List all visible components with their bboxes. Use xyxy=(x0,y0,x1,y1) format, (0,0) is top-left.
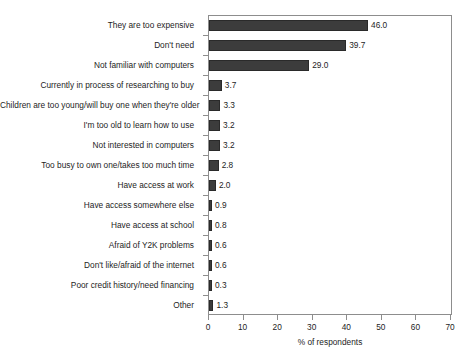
table-row: 29.0 xyxy=(209,56,451,76)
category-label: Have access at work xyxy=(0,175,200,195)
table-row: 3.2 xyxy=(209,116,451,136)
bar-value-label: 2.8 xyxy=(222,159,234,171)
value-tick xyxy=(450,315,451,320)
value-tick xyxy=(312,315,313,320)
x-axis-title: % of respondents xyxy=(208,337,452,347)
bar-value-label: 29.0 xyxy=(312,59,328,71)
category-label: Have access somewhere else xyxy=(0,195,200,215)
bar xyxy=(209,280,212,291)
value-tick-label: 60 xyxy=(400,322,430,332)
bar-value-label: 46.0 xyxy=(371,19,387,31)
bar xyxy=(209,80,222,91)
category-label: Children are too young/will buy one when… xyxy=(0,95,200,115)
table-row: 0.8 xyxy=(209,216,451,236)
value-tick-label: 20 xyxy=(262,322,292,332)
bar xyxy=(209,260,212,271)
bar xyxy=(209,60,309,71)
bar-value-label: 3.3 xyxy=(223,99,235,111)
bar-value-label: 0.6 xyxy=(215,239,227,251)
value-tick xyxy=(346,315,347,320)
bar-chart: They are too expensiveDon't needNot fami… xyxy=(0,0,476,359)
category-label: I'm too old to learn how to use xyxy=(0,115,200,135)
bar xyxy=(209,240,212,251)
bars-layer: 46.039.729.03.73.33.23.22.82.00.90.80.60… xyxy=(209,16,451,314)
table-row: 3.2 xyxy=(209,136,451,156)
category-label: Too busy to own one/takes too much time xyxy=(0,155,200,175)
category-label: Other xyxy=(0,295,200,315)
value-tick-label: 70 xyxy=(435,322,465,332)
value-tick-label: 50 xyxy=(366,322,396,332)
bar xyxy=(209,180,216,191)
category-label: Currently in process of researching to b… xyxy=(0,75,200,95)
value-axis-ticks xyxy=(208,315,452,321)
bar xyxy=(209,220,212,231)
value-tick-label: 0 xyxy=(193,322,223,332)
value-tick-label: 30 xyxy=(297,322,327,332)
value-tick xyxy=(381,315,382,320)
category-label: Have access at school xyxy=(0,215,200,235)
bar-value-label: 0.3 xyxy=(215,279,227,291)
table-row: 3.3 xyxy=(209,96,451,116)
category-label: Don't like/afraid of the internet xyxy=(0,255,200,275)
table-row: 0.3 xyxy=(209,276,451,296)
table-row: 1.3 xyxy=(209,296,451,316)
value-tick-label: 40 xyxy=(331,322,361,332)
table-row: 3.7 xyxy=(209,76,451,96)
table-row: 2.8 xyxy=(209,156,451,176)
bar-value-label: 3.2 xyxy=(223,119,235,131)
table-row: 0.6 xyxy=(209,256,451,276)
value-tick xyxy=(415,315,416,320)
table-row: 2.0 xyxy=(209,176,451,196)
table-row: 0.6 xyxy=(209,236,451,256)
bar-value-label: 39.7 xyxy=(349,39,365,51)
category-label: Afraid of Y2K problems xyxy=(0,235,200,255)
category-label: Not interested in computers xyxy=(0,135,200,155)
bar-value-label: 1.3 xyxy=(216,299,228,311)
value-tick xyxy=(243,315,244,320)
bar-value-label: 3.2 xyxy=(223,139,235,151)
value-tick xyxy=(277,315,278,320)
table-row: 46.0 xyxy=(209,16,451,36)
bar-value-label: 3.7 xyxy=(225,79,237,91)
value-tick xyxy=(208,315,209,320)
bar xyxy=(209,100,220,111)
bar xyxy=(209,140,220,151)
bar xyxy=(209,160,219,171)
bar-value-label: 0.8 xyxy=(215,219,227,231)
value-tick-label: 10 xyxy=(228,322,258,332)
table-row: 39.7 xyxy=(209,36,451,56)
bar-value-label: 2.0 xyxy=(219,179,231,191)
bar xyxy=(209,200,212,211)
table-row: 0.9 xyxy=(209,196,451,216)
bar xyxy=(209,120,220,131)
category-label: Don't need xyxy=(0,35,200,55)
category-label: Poor credit history/need financing xyxy=(0,275,200,295)
bar-value-label: 0.9 xyxy=(215,199,227,211)
bar-value-label: 0.6 xyxy=(215,259,227,271)
bar xyxy=(209,40,346,51)
bar xyxy=(209,20,368,31)
category-label: They are too expensive xyxy=(0,15,200,35)
category-axis-labels: They are too expensiveDon't needNot fami… xyxy=(0,15,200,315)
bar xyxy=(209,300,213,311)
category-label: Not familiar with computers xyxy=(0,55,200,75)
